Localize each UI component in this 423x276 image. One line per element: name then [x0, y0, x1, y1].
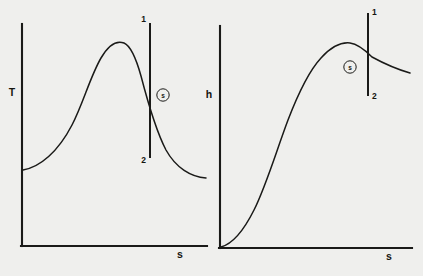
left-entropy-badge: s	[157, 89, 169, 101]
left-state-1-label: 1	[141, 14, 146, 24]
right-state-2-label: 2	[372, 91, 377, 101]
right-entropy-badge: s	[344, 61, 356, 73]
right-entropy-badge-label: s	[348, 64, 352, 71]
left-x-axis-label: s	[177, 248, 183, 260]
right-y-axis-label: h	[206, 88, 212, 100]
panel-right-hs-diagram: 1 2 s h s	[206, 7, 412, 262]
panel-left-ts-diagram: 1 2 s T s	[9, 14, 207, 260]
diagram-canvas: 1 2 s T s 1 2 s h s	[0, 0, 423, 276]
right-x-axis-label: s	[386, 250, 392, 262]
right-saturation-curve	[221, 43, 410, 247]
right-state-1-label: 1	[372, 7, 377, 17]
left-saturation-curve	[23, 42, 206, 178]
left-state-2-label: 2	[141, 155, 146, 165]
left-y-axis-label: T	[9, 86, 16, 98]
left-entropy-badge-label: s	[161, 92, 165, 99]
thermodynamic-diagram-figure: 1 2 s T s 1 2 s h s	[0, 0, 423, 276]
